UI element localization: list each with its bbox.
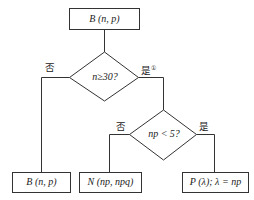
poisson-output-label: P (λ); λ = np bbox=[182, 176, 249, 188]
decision1-yes-label: 是① bbox=[141, 62, 156, 77]
decision2-no-label: 否 bbox=[116, 121, 126, 133]
footnote-marker: ① bbox=[151, 64, 156, 71]
flowchart: B (n, p) n≥30? np < 5? B (n, p) N (np, n… bbox=[0, 0, 254, 200]
decision1-label: n≥30? bbox=[78, 71, 132, 83]
start-node-label: B (n, p) bbox=[69, 13, 140, 25]
normal-output-label: N (np, npq) bbox=[79, 176, 142, 188]
decision2-yes-label: 是 bbox=[199, 121, 209, 133]
flowchart-lines bbox=[0, 0, 254, 200]
yes-text: 是 bbox=[141, 65, 151, 76]
decision2-label: np < 5? bbox=[135, 128, 193, 140]
decision1-no-label: 否 bbox=[45, 62, 55, 74]
binomial-output-label: B (n, p) bbox=[12, 176, 71, 188]
